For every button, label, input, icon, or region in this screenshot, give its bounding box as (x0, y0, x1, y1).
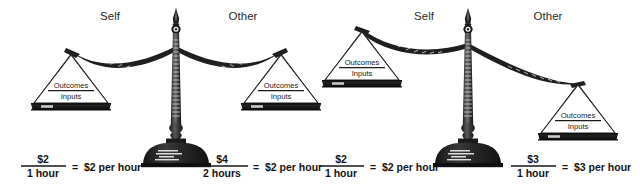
formula-denominator-self-right: 1 hour (325, 167, 357, 179)
formula-result-other-right: $3 per hour (574, 161, 631, 173)
pan-denominator-self-right: Inputs (352, 69, 373, 78)
formula-result-self-left: $2 per hour (84, 161, 141, 173)
pan-denominator-self-left: Inputs (61, 92, 82, 101)
pan-denominator-other-left: Inputs (271, 92, 292, 101)
column-heading-other-left: Other (229, 10, 258, 22)
formula-self-left: $2 1 hour = $2 per hour (21, 153, 141, 179)
pan-numerator-other-right: Outcomes (561, 111, 596, 120)
formula-denominator-other-right: 1 hour (517, 167, 549, 179)
pan-numerator-self-left: Outcomes (54, 81, 89, 90)
formula-equals-other-right: = (562, 161, 568, 173)
formula-denominator-self-left: 1 hour (27, 167, 59, 179)
scale-pan-other-right: Outcomes Inputs (538, 84, 618, 141)
formula-numerator-other-left: $4 (216, 153, 228, 165)
formula-other-right: $3 1 hour = $3 per hour (511, 153, 631, 179)
column-heading-self-left: Self (100, 10, 121, 22)
formula-other-left: $4 2 hours = $2 per hour (197, 153, 322, 179)
scale-pillar-right (433, 8, 503, 167)
pan-numerator-other-left: Outcomes (264, 81, 299, 90)
scale-pan-self-right: Outcomes Inputs (322, 31, 402, 88)
balance-scale-left: Self Other (21, 8, 322, 179)
pan-numerator-self-right: Outcomes (345, 58, 380, 67)
formula-numerator-self-right: $2 (335, 153, 347, 165)
scale-pillar-left (141, 8, 211, 167)
formula-equals-self-left: = (72, 161, 78, 173)
column-heading-other-right: Other (534, 10, 563, 22)
equity-theory-figure: Self Other (0, 0, 640, 189)
formula-result-self-right: $2 per hour (382, 161, 439, 173)
formula-equals-self-right: = (370, 161, 376, 173)
formula-result-other-left: $2 per hour (265, 161, 322, 173)
formula-numerator-other-right: $3 (527, 153, 539, 165)
formula-equals-other-left: = (253, 161, 259, 173)
formula-denominator-other-left: 2 hours (203, 167, 241, 179)
balance-scale-right: Self Other (319, 8, 631, 179)
column-heading-self-right: Self (414, 10, 435, 22)
formula-numerator-self-left: $2 (37, 153, 49, 165)
pan-denominator-other-right: Inputs (568, 122, 589, 131)
formula-self-right: $2 1 hour = $2 per hour (319, 153, 439, 179)
